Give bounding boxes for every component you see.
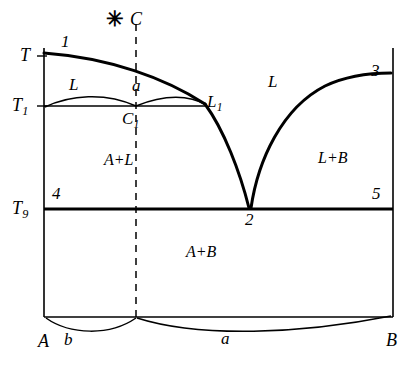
region-label-liquid-left: L bbox=[69, 76, 78, 93]
region-label-alpha: a bbox=[132, 77, 141, 94]
region-label-A-plus-L: A+L bbox=[104, 152, 133, 168]
axis-endpoint-B: B bbox=[386, 331, 397, 349]
point-label-5: 5 bbox=[372, 185, 381, 202]
region-label-alpha-bottom: a bbox=[221, 330, 230, 347]
point-label-L1-sub: 1 bbox=[217, 101, 223, 114]
region-label-liquid-right: L bbox=[268, 73, 277, 90]
axis-label-T9: T9 bbox=[12, 199, 28, 217]
region-label-L-plus-B: L+B bbox=[318, 150, 347, 166]
axis-label-T9-sub: 9 bbox=[22, 207, 28, 221]
point-label-1: 1 bbox=[61, 33, 70, 50]
point-label-4: 4 bbox=[52, 185, 61, 202]
region-label-beta-bottom: b bbox=[64, 331, 73, 348]
point-label-C1: C1 bbox=[122, 110, 139, 127]
solvus-left-arc-beta bbox=[46, 318, 136, 331]
axis-endpoint-A: A bbox=[38, 332, 49, 350]
solvus-right-arc-alpha bbox=[137, 316, 391, 331]
point-label-2: 2 bbox=[245, 211, 254, 228]
point-label-3: 3 bbox=[371, 62, 380, 79]
axis-label-T: T bbox=[20, 46, 30, 64]
axis-label-T1: T1 bbox=[12, 96, 28, 114]
liquidus-to-eutectic-left bbox=[205, 104, 249, 208]
point-label-L1: L1 bbox=[207, 93, 222, 110]
liquidus-right-branch bbox=[251, 73, 391, 208]
phase-diagram-canvas bbox=[0, 0, 418, 367]
asterisk-icon: ✳ bbox=[106, 9, 124, 30]
point-label-C1-sub: 1 bbox=[134, 118, 140, 131]
point-label-C: C bbox=[130, 10, 142, 28]
region-label-A-plus-B: A+B bbox=[186, 244, 216, 260]
phase-diagram-figure: T T1 T9 A B 1 2 3 4 5 ✳ C C1 L1 L a L A+… bbox=[0, 0, 418, 367]
axis-label-T1-sub: 1 bbox=[22, 104, 28, 118]
